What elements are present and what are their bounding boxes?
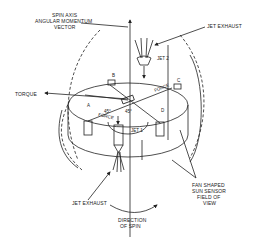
- point-c-label: C: [177, 78, 181, 83]
- jet-2: [135, 38, 153, 78]
- sun-sensor-label-4: VIEW: [203, 200, 216, 206]
- torque-label: TORQUE: [15, 91, 37, 97]
- point-d-label: D: [161, 108, 165, 113]
- point-b-label: B: [112, 73, 115, 78]
- point-a-label: A: [87, 103, 90, 108]
- torque-vector: [45, 93, 128, 99]
- spacecraft-body: [68, 83, 188, 157]
- force-top-label: FORCE: [154, 82, 170, 93]
- direction-of-spin-label-2: OF SPIN: [120, 223, 141, 229]
- angle-left-label: 45°: [104, 109, 111, 114]
- spacecraft-spin-diagram: SPIN AXIS ANGULAR MOMENTUM VECTOR JET EX…: [0, 0, 255, 237]
- jet-exhaust-top-label: JET EXHAUST: [207, 23, 242, 29]
- labels: SPIN AXIS ANGULAR MOMENTUM VECTOR JET EX…: [15, 12, 242, 229]
- jet-1-label: JET 1: [131, 128, 143, 133]
- angle-right-label: 45°: [125, 109, 132, 114]
- spin-axis-label-3: VECTOR: [54, 24, 76, 30]
- jet-exhaust-bottom-label: JET EXHAUST: [72, 200, 107, 206]
- jet-2-label: JET 2: [157, 56, 169, 61]
- direction-of-spin-arrow: [110, 205, 157, 213]
- jet-1: [113, 116, 124, 172]
